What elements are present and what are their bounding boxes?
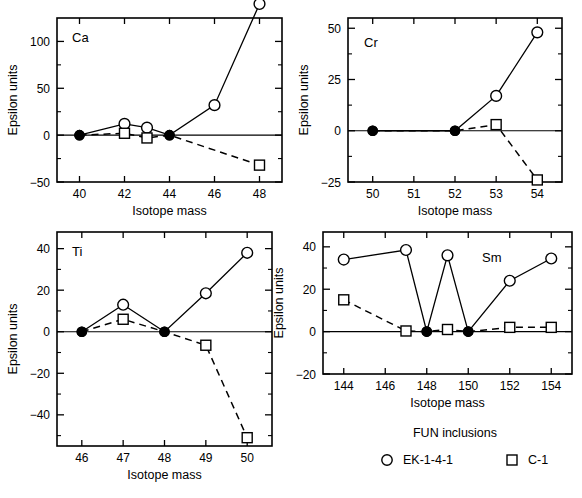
y-tick-label: 40 <box>303 240 317 254</box>
x-tick-label: 144 <box>334 379 354 393</box>
plot-frame <box>57 232 272 446</box>
series-line-ek-1-4-1 <box>82 253 247 332</box>
open-square-marker <box>532 175 542 185</box>
open-square-marker <box>339 295 349 305</box>
x-tick-label: 48 <box>253 187 267 201</box>
series-line-ek-1-4-1 <box>344 250 552 332</box>
x-tick-label: 50 <box>241 451 255 465</box>
x-tick-label: 146 <box>375 379 395 393</box>
y-tick-label: 20 <box>303 283 317 297</box>
plot-frame <box>57 18 282 182</box>
chart-panel-sm: 144146148150152154−2002040SmIsotope mass… <box>272 232 572 410</box>
open-circle-marker <box>504 275 515 286</box>
open-square-marker <box>201 340 211 350</box>
x-tick-label: 52 <box>448 187 462 201</box>
open-circle-marker <box>491 91 502 102</box>
open-square-marker <box>505 322 515 332</box>
filled-circle-marker <box>368 126 377 135</box>
y-axis-title: Epsilon units <box>6 304 20 375</box>
x-axis-title: Isotope mass <box>132 204 206 218</box>
y-axis-title: Epsilon units <box>6 65 20 136</box>
legend: FUN inclusionsEK-1-4-1C-1 <box>382 426 548 467</box>
filled-circle-marker <box>165 131 174 140</box>
open-circle-marker <box>200 288 211 299</box>
open-square-marker <box>546 322 556 332</box>
open-square-marker <box>491 120 501 130</box>
y-tick-label: 100 <box>30 35 50 49</box>
panel-title-ca: Ca <box>72 30 89 45</box>
series-line-ek-1-4-1 <box>373 32 538 130</box>
filled-circle-marker <box>450 126 459 135</box>
y-tick-label: −25 <box>321 176 342 190</box>
open-circle-marker <box>254 0 265 9</box>
y-tick-label: −50 <box>30 176 51 190</box>
chart-panel-ti: 4647484950−40−2002040TiIsotope massEpsil… <box>6 232 272 482</box>
x-tick-label: 47 <box>116 451 130 465</box>
open-square-marker <box>120 128 130 138</box>
filled-circle-marker <box>75 131 84 140</box>
legend-title: FUN inclusions <box>413 426 497 440</box>
open-circle-icon <box>382 455 392 465</box>
y-tick-label: 40 <box>37 242 51 256</box>
open-circle-marker <box>401 245 412 256</box>
legend-label: C-1 <box>528 453 548 467</box>
filled-circle-marker <box>160 327 169 336</box>
y-tick-label: 50 <box>37 82 51 96</box>
open-circle-marker <box>242 247 253 258</box>
y-tick-label: 0 <box>43 129 50 143</box>
figure-svg: 4042444648−50050100CaIsotope massEpsilon… <box>0 0 582 498</box>
x-tick-label: 148 <box>417 379 437 393</box>
x-tick-label: 49 <box>199 451 213 465</box>
x-tick-label: 44 <box>163 187 177 201</box>
open-square-icon <box>507 455 517 465</box>
panel-title-sm: Sm <box>482 250 502 265</box>
chart-panel-ca: 4042444648−50050100CaIsotope massEpsilon… <box>6 0 282 218</box>
chart-panel-cr: 5051525354−2502550CrIsotope massEpsilon … <box>297 18 562 218</box>
open-square-marker <box>118 314 128 324</box>
y-tick-label: −20 <box>30 367 51 381</box>
x-tick-label: 48 <box>158 451 172 465</box>
y-tick-label: 0 <box>334 124 341 138</box>
x-axis-title: Isotope mass <box>127 468 201 482</box>
open-circle-marker <box>546 253 557 264</box>
x-tick-label: 150 <box>458 379 478 393</box>
filled-circle-marker <box>77 327 86 336</box>
open-circle-marker <box>142 122 153 133</box>
open-square-marker <box>443 324 453 334</box>
legend-entry-ek-1-4-1: EK-1-4-1 <box>382 453 453 467</box>
filled-circle-marker <box>422 327 431 336</box>
open-square-marker <box>142 133 152 143</box>
open-circle-marker <box>532 27 543 38</box>
filled-circle-marker <box>464 327 473 336</box>
x-axis-title: Isotope mass <box>418 204 492 218</box>
open-circle-marker <box>209 100 220 111</box>
y-tick-label: 0 <box>309 325 316 339</box>
open-circle-marker <box>442 250 453 261</box>
x-tick-label: 54 <box>531 187 545 201</box>
legend-entry-c-1: C-1 <box>507 453 548 467</box>
open-circle-marker <box>118 299 129 310</box>
x-tick-label: 53 <box>489 187 503 201</box>
open-square-marker <box>401 326 411 336</box>
y-tick-label: 25 <box>328 73 342 87</box>
x-tick-label: 42 <box>118 187 132 201</box>
y-tick-label: −40 <box>30 408 51 422</box>
y-axis-title: Epsilon units <box>272 268 286 339</box>
isotope-figure: 4042444648−50050100CaIsotope massEpsilon… <box>0 0 582 498</box>
x-tick-label: 51 <box>407 187 421 201</box>
x-tick-label: 50 <box>366 187 380 201</box>
x-tick-label: 46 <box>208 187 222 201</box>
legend-label: EK-1-4-1 <box>403 453 453 467</box>
x-tick-label: 154 <box>541 379 561 393</box>
y-axis-title: Epsilon units <box>297 65 311 136</box>
panel-title-ti: Ti <box>72 244 82 259</box>
y-tick-label: 50 <box>328 22 342 36</box>
open-square-marker <box>255 160 265 170</box>
open-circle-marker <box>338 254 349 265</box>
x-tick-label: 152 <box>500 379 520 393</box>
open-square-marker <box>242 433 252 443</box>
x-tick-label: 40 <box>73 187 87 201</box>
x-axis-title: Isotope mass <box>410 396 484 410</box>
panel-title-cr: Cr <box>364 35 378 50</box>
y-tick-label: 20 <box>37 284 51 298</box>
